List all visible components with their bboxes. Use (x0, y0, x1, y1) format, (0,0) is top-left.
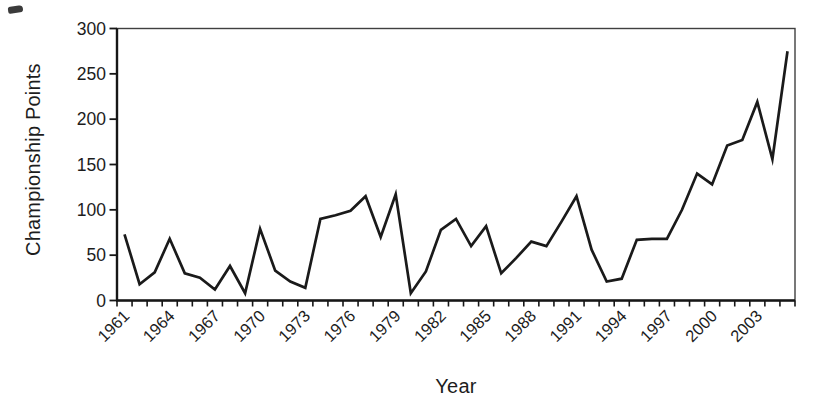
y-tick-label: 300 (77, 19, 106, 39)
x-tick-label: 1988 (501, 306, 540, 345)
x-axis: 1961196419671970197319761979198219851988… (94, 301, 795, 346)
x-tick-label: 1997 (636, 306, 675, 345)
y-tick-label: 200 (77, 109, 106, 129)
chart-canvas: 0501001502002503001961196419671970197319… (0, 0, 821, 420)
x-tick-label: 1979 (365, 306, 404, 345)
x-tick-label: 1973 (275, 306, 314, 345)
line-chart-figure: Championship Points 05010015020025030019… (0, 0, 821, 420)
x-tick-label: 1961 (94, 306, 133, 345)
x-tick-label: 2003 (727, 306, 766, 345)
x-tick-label: 1976 (320, 306, 359, 345)
y-tick-label: 100 (77, 200, 106, 220)
x-tick-label: 1967 (184, 306, 223, 345)
y-axis: 050100150200250300 (77, 19, 117, 311)
y-tick-label: 250 (77, 64, 106, 84)
x-tick-label: 2000 (682, 306, 721, 345)
x-tick-label: 1994 (591, 306, 630, 345)
x-tick-label: 1970 (230, 306, 269, 345)
series-line (125, 51, 788, 293)
x-tick-label: 1982 (410, 306, 449, 345)
plot-frame (117, 29, 795, 301)
y-tick-label: 150 (77, 155, 106, 175)
x-tick-label: 1985 (456, 306, 495, 345)
x-tick-label: 1964 (139, 306, 178, 345)
x-axis-title: Year (416, 375, 496, 398)
y-tick-label: 50 (87, 245, 107, 265)
y-tick-label: 0 (96, 291, 106, 311)
x-tick-label: 1991 (546, 306, 585, 345)
